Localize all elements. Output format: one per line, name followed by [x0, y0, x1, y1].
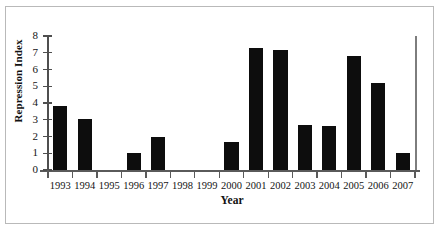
- x-tick-label-2007: 2007: [383, 180, 423, 191]
- bar-2004: [322, 126, 336, 170]
- bar-2006: [371, 83, 385, 170]
- x-tick-9: [268, 170, 269, 178]
- x-tick-11: [316, 170, 317, 178]
- x-tick-13: [365, 170, 366, 178]
- bar-2002: [273, 50, 287, 170]
- x-tick-8: [243, 170, 244, 178]
- x-tick-3: [121, 170, 122, 178]
- x-tick-1: [72, 170, 73, 178]
- bar-2007: [396, 153, 410, 170]
- x-tick-12: [341, 170, 342, 178]
- x-axis-title: Year: [48, 194, 416, 206]
- bar-1997: [151, 137, 165, 171]
- bar-2005: [347, 56, 361, 170]
- x-tick-15: [414, 170, 415, 178]
- bar-2000: [224, 142, 238, 170]
- bar-2003: [298, 125, 312, 170]
- x-tick-4: [145, 170, 146, 178]
- x-tick-7: [219, 170, 220, 178]
- x-tick-14: [390, 170, 391, 178]
- x-tick-10: [292, 170, 293, 178]
- x-tick-5: [170, 170, 171, 178]
- bar-1996: [127, 153, 141, 170]
- x-tick-2: [96, 170, 97, 178]
- bar-1994: [78, 119, 92, 170]
- x-tick-6: [194, 170, 195, 178]
- bar-1993: [53, 106, 67, 170]
- x-tick-0: [47, 170, 48, 178]
- bar-series: [0, 36, 441, 170]
- bar-2001: [249, 48, 263, 170]
